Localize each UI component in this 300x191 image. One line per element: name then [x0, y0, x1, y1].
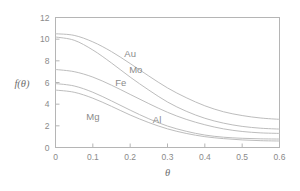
- y-tick-label: 10: [40, 34, 50, 44]
- series-label-mo: Mo: [129, 64, 142, 75]
- series-label-au: Au: [124, 48, 136, 59]
- x-axis-tick-labels: 00.10.20.30.40.50.6: [53, 152, 286, 162]
- plot-frame-rect: [56, 18, 280, 148]
- chart-figure: 024681012 00.10.20.30.40.50.6 AuMoFeAlMg…: [0, 0, 300, 191]
- x-axis-ticks: [56, 144, 280, 148]
- y-tick-label: 2: [45, 121, 50, 131]
- y-tick-label: 0: [45, 143, 50, 153]
- y-tick-label: 12: [40, 13, 50, 23]
- series-label-fe: Fe: [115, 77, 126, 88]
- series-label-al: Al: [153, 114, 161, 125]
- x-tick-label: 0.6: [274, 152, 286, 162]
- x-tick-label: 0.4: [199, 152, 211, 162]
- data-curve-au: [56, 34, 280, 120]
- y-axis-tick-labels: 024681012: [40, 13, 50, 153]
- series-label-mg: Mg: [86, 111, 99, 122]
- y-tick-label: 8: [45, 56, 50, 66]
- y-tick-label: 4: [45, 99, 50, 109]
- x-tick-label: 0.1: [87, 152, 99, 162]
- x-tick-label: 0.2: [124, 152, 136, 162]
- plot-frame: [56, 18, 280, 148]
- y-axis-title: f(θ): [14, 78, 30, 90]
- x-axis-title: θ: [165, 167, 170, 178]
- y-tick-label: 6: [45, 78, 50, 88]
- line-chart: 024681012 00.10.20.30.40.50.6 AuMoFeAlMg…: [0, 0, 300, 191]
- x-tick-label: 0.3: [162, 152, 174, 162]
- data-curves: [56, 34, 280, 141]
- x-tick-label: 0: [53, 152, 58, 162]
- x-tick-label: 0.5: [236, 152, 248, 162]
